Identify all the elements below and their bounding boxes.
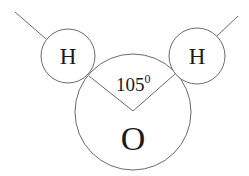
- diagram-canvas: H H O 1050: [0, 0, 249, 176]
- bond-angle-degree: 0: [145, 72, 151, 86]
- water-molecule-diagram: H H O 1050: [0, 0, 249, 176]
- hydrogen-right-label: H: [189, 44, 206, 69]
- hydrogen-left-label: H: [60, 44, 77, 69]
- left-outer-bond-line: [15, 12, 46, 39]
- bond-angle-value: 105: [116, 74, 145, 95]
- oxygen-label: O: [121, 120, 146, 157]
- right-outer-bond-line: [217, 16, 238, 36]
